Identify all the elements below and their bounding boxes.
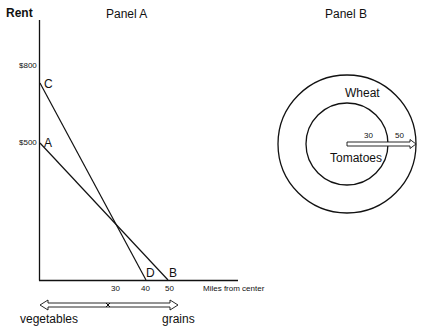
y-tick-500: $500 (19, 138, 37, 147)
arrow-label-vegetables: vegetables (20, 312, 78, 326)
y-axis-label: Rent (6, 6, 33, 20)
arrow-label-grains: grains (162, 312, 195, 326)
point-label-d: D (146, 266, 155, 280)
bid-rent-line-cd (40, 83, 146, 280)
x-tick-50: 50 (165, 284, 174, 293)
bid-rent-line-ab (40, 143, 168, 280)
x-tick-30: 30 (111, 284, 120, 293)
point-label-b: B (169, 266, 177, 280)
x-tick-40: 40 (141, 284, 150, 293)
figure-canvas (0, 0, 423, 332)
y-tick-800: $800 (19, 61, 37, 70)
panel-b-title: Panel B (325, 7, 367, 21)
ring-label-tomatoes: Tomatoes (330, 151, 382, 165)
ring-label-wheat: Wheat (345, 86, 380, 100)
x-axis-label: Miles from center (203, 284, 264, 293)
radius-label-30: 30 (364, 131, 373, 140)
land-use-double-arrow (40, 300, 178, 310)
radius-arrow (347, 140, 416, 149)
radius-label-50: 50 (395, 131, 404, 140)
panel-a-title: Panel A (106, 7, 147, 21)
point-label-a: A (44, 136, 52, 150)
point-label-c: C (44, 77, 53, 91)
